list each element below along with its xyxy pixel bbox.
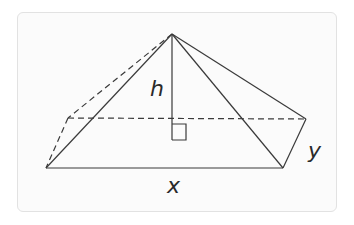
pyramid-diagram: h x y bbox=[0, 0, 354, 225]
label-y: y bbox=[307, 138, 322, 163]
hidden-edge-back-left-front-left bbox=[46, 118, 68, 168]
edge-apex-back-right bbox=[172, 34, 306, 119]
edge-base-right bbox=[283, 119, 306, 168]
edge-apex-front-left bbox=[46, 34, 172, 168]
hidden-edge-back bbox=[68, 118, 306, 119]
label-h: h bbox=[150, 76, 164, 101]
edge-apex-front-right bbox=[172, 34, 283, 168]
right-angle-marker bbox=[172, 124, 186, 140]
label-x: x bbox=[166, 173, 181, 198]
